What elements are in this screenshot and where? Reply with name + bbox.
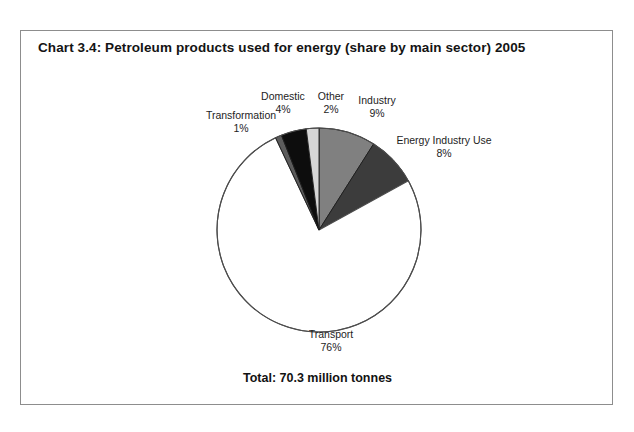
pie-label-industry: Industry 9%: [346, 94, 408, 119]
pie-label-energy-industry-use: Energy Industry Use 8%: [383, 134, 505, 159]
chart-frame: Chart 3.4: Petroleum products used for e…: [20, 30, 613, 405]
pie-label-domestic: Domestic 4%: [252, 90, 314, 115]
pie-label-energy-industry-use-name: Energy Industry Use: [396, 134, 491, 146]
chart-total-note: Total: 70.3 million tonnes: [21, 371, 614, 385]
pie-label-transport: Transport 76%: [279, 328, 383, 353]
pie-label-industry-name: Industry: [358, 94, 395, 106]
pie-label-transport-name: Transport: [309, 328, 354, 340]
pie-label-other-name: Other: [318, 90, 344, 102]
pie-label-industry-percent: 9%: [346, 107, 408, 120]
pie-label-energy-industry-use-percent: 8%: [383, 147, 505, 160]
pie-label-domestic-percent: 4%: [252, 103, 314, 116]
pie-label-transport-percent: 76%: [279, 341, 383, 354]
pie-label-transformation-percent: 1%: [193, 122, 289, 135]
pie-chart: Transformation 1% Domestic 4% Other 2% I…: [21, 31, 614, 406]
pie-label-domestic-name: Domestic: [261, 90, 305, 102]
scan-artifact-text: UK petroleum products used for energy by…: [42, 0, 342, 9]
